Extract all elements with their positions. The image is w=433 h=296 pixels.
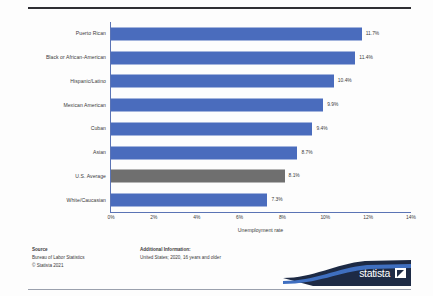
category-label: Black or African-American [28,55,106,60]
x-axis-tick-label: 10% [320,215,330,220]
bar [111,122,312,135]
category-label: Mexican American [28,103,106,108]
source-line-2: © Statista 2021 [32,262,85,270]
x-axis-tick-label: 12% [363,215,373,220]
category-label: Puerto Rican [28,31,106,36]
additional-info-block: Additional Information: United States; 2… [140,246,221,262]
source-heading: Source [32,246,85,254]
x-axis-tick-label: 8% [279,215,286,220]
bar-value-label: 7.3% [271,198,282,203]
bar [111,99,323,112]
source-line-1: Bureau of Labor Statistics [32,254,85,262]
category-label: Cuban [28,126,106,131]
x-axis-tick-label: 14% [406,215,416,220]
additional-info-heading: Additional Information: [140,246,221,254]
bar-row: Puerto Rican11.7% [28,22,411,46]
x-axis-ticks: 0%2%4%6%8%10%12%14% [28,215,411,225]
bar-row: White/Caucasian7.3% [28,188,411,212]
x-axis-tick-label: 2% [150,215,157,220]
x-axis-tick-label: 4% [193,215,200,220]
x-axis-tick-label: 6% [236,215,243,220]
bar [111,194,267,207]
bar-value-label: 10.4% [338,79,352,84]
bar-value-label: 9.9% [327,103,338,108]
bar [111,75,334,88]
bar-row: Asian8.7% [28,141,411,165]
bar-value-label: 8.7% [301,150,312,155]
statista-banner: statista [283,258,411,286]
x-axis-title: Unemployment rate [110,227,411,233]
statista-logo-mark [395,268,406,278]
bar-row: Mexican American9.9% [28,93,411,117]
category-label: Asian [28,150,106,155]
bar-row: U.S. Average8.1% [28,165,411,189]
bar [111,146,297,159]
additional-info-line-1: United States; 2020, 16 years and older [140,254,221,262]
source-block: Source Bureau of Labor Statistics © Stat… [32,246,85,270]
bar [111,51,355,64]
x-axis-tick-label: 0% [107,215,114,220]
bar-value-label: 9.4% [316,126,327,131]
bar-value-label: 8.1% [289,174,300,179]
chart-page: Puerto Rican11.7%Black or African-Americ… [0,0,433,296]
category-label: Hispanic/Latino [28,79,106,84]
bottom-divider [28,289,411,290]
statista-logo-text: statista [359,267,390,279]
plot-area: Puerto Rican11.7%Black or African-Americ… [28,22,411,218]
category-label: U.S. Average [28,174,106,179]
bar [111,170,285,183]
top-divider [28,7,411,9]
x-axis-line [110,212,411,213]
category-label: White/Caucasian [28,198,106,203]
banner-shape [283,258,411,286]
bar-row: Hispanic/Latino10.4% [28,70,411,94]
bar-row: Black or African-American11.4% [28,46,411,70]
bar-rows: Puerto Rican11.7%Black or African-Americ… [28,22,411,212]
bar-value-label: 11.4% [359,55,373,60]
bar-value-label: 11.7% [366,31,380,36]
bar [111,27,362,40]
bar-row: Cuban9.4% [28,117,411,141]
